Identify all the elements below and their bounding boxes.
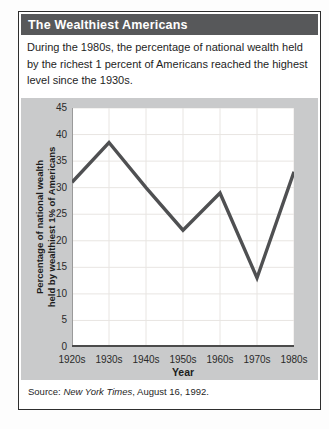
y-tick-label: 10 (25, 288, 67, 300)
source-line: Source: New York Times, August 16, 1992. (28, 386, 312, 397)
plot-area (72, 108, 294, 347)
y-axis-title: Percentage of national wealth held by we… (34, 147, 57, 308)
source-prefix: Source: (28, 386, 63, 397)
y-tick-label: 5 (25, 314, 67, 326)
y-axis-title-line2: held by wealthiest 1% of Americans (45, 147, 57, 308)
figure-header: The Wealthiest Americans (21, 14, 318, 35)
y-tick-label: 15 (25, 261, 67, 273)
intro-text: During the 1980s, the percentage of nati… (27, 39, 313, 89)
y-axis-title-line1: Percentage of national wealth (34, 147, 46, 308)
y-tick-label: 0 (25, 341, 67, 353)
x-tick-label: 1980s (272, 354, 316, 366)
source-suffix: , August 16, 1992. (132, 386, 209, 397)
y-tick-label: 20 (25, 235, 67, 247)
y-tick-label: 30 (25, 182, 67, 194)
source-publication: New York Times (63, 386, 132, 397)
y-tick-label: 40 (25, 129, 67, 141)
x-axis-title: Year (72, 366, 294, 378)
line-chart (72, 108, 294, 347)
y-tick-label: 25 (25, 208, 67, 220)
chart-panel: Percentage of national wealth held by we… (21, 98, 318, 380)
y-tick-label: 35 (25, 155, 67, 167)
figure-box: The Wealthiest Americans During the 1980… (18, 11, 321, 410)
y-tick-label: 45 (25, 102, 67, 114)
figure-title: The Wealthiest Americans (28, 18, 188, 32)
figure-page: The Wealthiest Americans During the 1980… (0, 0, 329, 429)
